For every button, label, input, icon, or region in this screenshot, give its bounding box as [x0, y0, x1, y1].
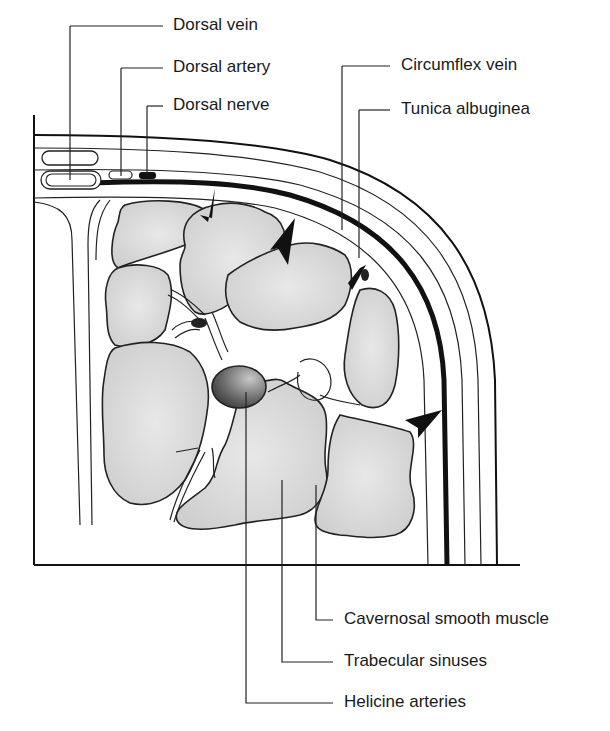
label-cavernosal-smooth-muscle: Cavernosal smooth muscle	[344, 610, 549, 627]
deep-dorsal-vein-inner	[46, 174, 96, 186]
cavernosal-smooth-muscle-islands	[102, 201, 414, 538]
label-dorsal-vein: Dorsal vein	[173, 16, 258, 33]
septum	[34, 200, 110, 525]
helicine-node-2	[361, 269, 369, 281]
label-circumflex-vein: Circumflex vein	[401, 56, 517, 73]
cavernosal-artery	[212, 366, 266, 408]
label-trabecular-sinuses: Trabecular sinuses	[344, 652, 487, 669]
label-dorsal-nerve: Dorsal nerve	[173, 96, 269, 113]
corpus-cavernosum-diagram: Dorsal vein Dorsal artery Dorsal nerve C…	[0, 0, 610, 731]
label-helicine-arteries: Helicine arteries	[344, 693, 466, 710]
label-tunica-albuginea: Tunica albuginea	[401, 100, 530, 117]
label-dorsal-artery: Dorsal artery	[173, 58, 270, 75]
helicine-node	[191, 318, 207, 328]
